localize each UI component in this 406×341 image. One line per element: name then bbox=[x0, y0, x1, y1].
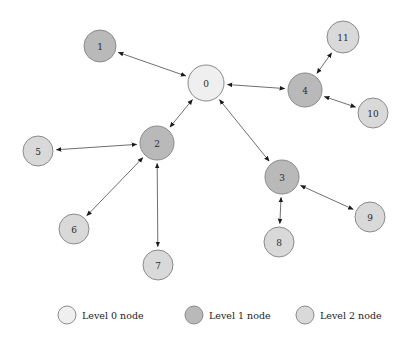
node-label: 7 bbox=[155, 261, 161, 271]
node-label: 1 bbox=[97, 42, 103, 52]
legend-item-level-0: Level 0 node bbox=[58, 306, 144, 324]
graph-edge bbox=[324, 97, 355, 108]
graph-node-6[interactable]: 6 bbox=[59, 214, 89, 244]
graph-edge bbox=[220, 100, 270, 161]
graph-edge bbox=[317, 53, 332, 73]
graph-node-10[interactable]: 10 bbox=[358, 98, 388, 128]
node-label: 0 bbox=[203, 79, 209, 89]
graph-edge bbox=[280, 197, 281, 223]
node-label: 3 bbox=[279, 173, 285, 183]
node-label: 9 bbox=[367, 213, 373, 223]
graph-edge bbox=[56, 144, 136, 149]
nodes-layer: 01234567891011 bbox=[23, 21, 388, 280]
legend-swatch-icon bbox=[296, 306, 314, 324]
graph-node-3[interactable]: 3 bbox=[265, 160, 299, 194]
graph-edge bbox=[118, 52, 185, 75]
network-diagram-figure: 01234567891011 Level 0 nodeLevel 1 nodeL… bbox=[0, 0, 406, 341]
node-label: 4 bbox=[302, 86, 308, 96]
node-label: 2 bbox=[154, 139, 160, 149]
graph-node-1[interactable]: 1 bbox=[84, 30, 116, 62]
graph-node-4[interactable]: 4 bbox=[288, 73, 322, 107]
graph-node-5[interactable]: 5 bbox=[23, 136, 53, 166]
graph-node-9[interactable]: 9 bbox=[355, 202, 385, 232]
graph-edge bbox=[301, 185, 353, 209]
legend-swatch-icon bbox=[185, 306, 203, 324]
legend-label: Level 0 node bbox=[82, 310, 144, 321]
graph-edge bbox=[170, 100, 192, 127]
legend-layer: Level 0 nodeLevel 1 nodeLevel 2 node bbox=[58, 306, 382, 324]
legend-swatch-icon bbox=[58, 306, 76, 324]
graph-canvas: 01234567891011 Level 0 nodeLevel 1 nodeL… bbox=[0, 0, 406, 341]
graph-node-8[interactable]: 8 bbox=[264, 227, 294, 257]
legend-label: Level 2 node bbox=[320, 310, 382, 321]
graph-node-2[interactable]: 2 bbox=[140, 126, 174, 160]
graph-node-0[interactable]: 0 bbox=[188, 65, 224, 101]
node-label: 10 bbox=[367, 109, 379, 119]
node-label: 6 bbox=[71, 225, 77, 235]
graph-edge bbox=[157, 163, 158, 246]
legend-item-level-1: Level 1 node bbox=[185, 306, 271, 324]
graph-edge bbox=[87, 158, 143, 216]
legend-item-level-2: Level 2 node bbox=[296, 306, 382, 324]
node-label: 11 bbox=[337, 33, 348, 43]
graph-node-7[interactable]: 7 bbox=[143, 250, 173, 280]
node-label: 8 bbox=[276, 238, 282, 248]
graph-node-11[interactable]: 11 bbox=[327, 21, 359, 53]
graph-edge bbox=[227, 85, 284, 89]
legend-label: Level 1 node bbox=[209, 310, 271, 321]
node-label: 5 bbox=[35, 147, 41, 157]
